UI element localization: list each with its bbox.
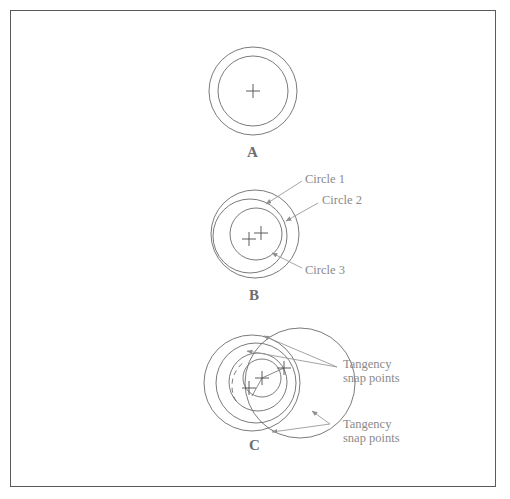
panel-b-crosshair-1 <box>254 226 268 240</box>
callout-circle-3: Circle 3 <box>305 264 345 278</box>
leader-tangency-lower-b <box>272 424 330 432</box>
panel-c-crosshair-1 <box>255 371 269 385</box>
callout-circle-1: Circle 1 <box>305 173 345 187</box>
leader-tangency-lower-a <box>312 411 330 424</box>
panel-b-circle-2 <box>213 199 287 273</box>
panel-c-dashed-arc <box>232 362 244 401</box>
panel-c-inner-left-circle <box>229 353 287 411</box>
panel-c-outer-left-circle <box>204 335 300 431</box>
callout-circle-2: Circle 2 <box>322 194 362 208</box>
leader-circle-2 <box>286 203 318 221</box>
panel-label-b: B <box>249 287 260 304</box>
panel-label-c: C <box>249 437 260 454</box>
callout-tangency-lower-line2: snap points <box>343 432 400 446</box>
figure-container: A B C Circle 1 Circle 2 Circle 3 Tangenc… <box>0 0 510 499</box>
panel-c-radius-line-2 <box>252 378 262 396</box>
panel-b-geometry <box>211 190 299 278</box>
diagram-canvas <box>0 0 510 499</box>
leader-circle-3 <box>272 253 302 268</box>
panel-a-center-crosshair <box>246 84 260 98</box>
callout-tangency-lower-line1: Tangency <box>343 418 391 432</box>
panel-b-circle-1 <box>211 190 299 278</box>
callout-tangency-upper-line2: snap points <box>343 372 400 386</box>
leader-tangency-upper-a <box>264 336 337 367</box>
panel-label-a: A <box>247 144 258 161</box>
panel-b-crosshair-2 <box>242 232 256 246</box>
panel-a-geometry <box>209 47 297 135</box>
panel-b-circle-3 <box>230 208 282 260</box>
panel-c-crosshair-3 <box>277 361 291 375</box>
callout-tangency-upper-line1: Tangency <box>343 358 391 372</box>
panel-c-callout-leaders <box>247 336 337 432</box>
panel-c-geometry <box>204 328 355 438</box>
